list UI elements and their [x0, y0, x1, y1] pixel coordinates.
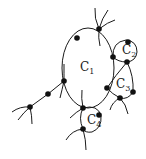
edge — [83, 129, 86, 150]
edge — [95, 8, 99, 29]
edge — [66, 129, 83, 140]
label-c3: C3 — [116, 78, 130, 93]
label-c2: C2 — [122, 44, 136, 59]
label-c1: C1 — [80, 61, 94, 76]
label-c4: C4 — [87, 114, 101, 129]
